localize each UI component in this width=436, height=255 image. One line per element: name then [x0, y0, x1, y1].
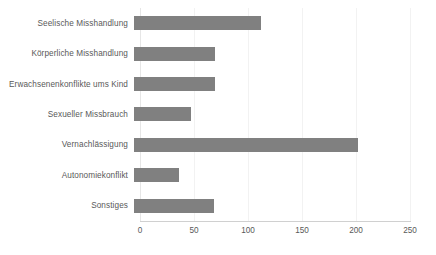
bar-track [134, 160, 436, 190]
x-tick-200: 200 [349, 226, 363, 235]
category-label: Autonomiekonflikt [0, 171, 134, 180]
category-label: Seelische Misshandlung [0, 19, 134, 28]
bar-row: Seelische Misshandlung [0, 8, 436, 38]
bar-track [134, 191, 436, 221]
x-tick-100: 100 [241, 226, 255, 235]
bar [134, 168, 179, 182]
bar-row: Sexueller Missbrauch [0, 99, 436, 129]
bar [134, 138, 358, 152]
category-label: Sexueller Missbrauch [0, 110, 134, 119]
bar-track [134, 99, 436, 129]
bar-track [134, 69, 436, 99]
bar-track [134, 130, 436, 160]
bar-row: Körperliche Misshandlung [0, 38, 436, 68]
bar-track [134, 8, 436, 38]
category-label: Erwachsenenkonflikte ums Kind [0, 80, 134, 89]
x-axis-line [140, 221, 411, 222]
bar-track [134, 38, 436, 68]
bar [134, 107, 191, 121]
bar-chart: Seelische MisshandlungKörperliche Missha… [0, 0, 436, 255]
bar-row: Erwachsenenkonflikte ums Kind [0, 69, 436, 99]
bar [134, 47, 215, 61]
category-label: Vernachlässigung [0, 140, 134, 149]
bar [134, 16, 261, 30]
x-tick-150: 150 [295, 226, 309, 235]
bar-row: Autonomiekonflikt [0, 160, 436, 190]
bar [134, 77, 215, 91]
x-tick-50: 50 [189, 226, 198, 235]
x-tick-0: 0 [138, 226, 143, 235]
bar-row: Sonstiges [0, 191, 436, 221]
category-label: Sonstiges [0, 201, 134, 210]
x-tick-labels: 050100150200250 [140, 226, 410, 242]
category-label: Körperliche Misshandlung [0, 49, 134, 58]
bar [134, 199, 214, 213]
bar-row: Vernachlässigung [0, 130, 436, 160]
x-tick-250: 250 [403, 226, 417, 235]
bar-rows: Seelische MisshandlungKörperliche Missha… [0, 8, 436, 221]
